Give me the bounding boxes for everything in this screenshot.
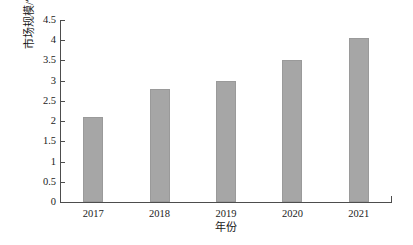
- y-tick-label: 2: [51, 114, 56, 127]
- y-tick: 2.5: [60, 101, 65, 102]
- bar: [282, 60, 302, 202]
- x-axis-title: 年份: [60, 220, 392, 234]
- y-tick-mark: [61, 121, 65, 122]
- x-tick: 2021: [359, 202, 360, 203]
- x-axis-end-cap: [391, 196, 392, 202]
- y-tick: 4.5: [60, 20, 65, 21]
- plot-area: 00.511.522.533.544.5 2017201820192020202…: [60, 20, 392, 202]
- y-tick-label: 0: [51, 195, 56, 208]
- y-tick-mark: [61, 182, 65, 183]
- y-tick-mark: [61, 81, 65, 82]
- x-tick-label: 2018: [130, 207, 190, 220]
- y-tick-mark: [61, 162, 65, 163]
- y-tick-mark: [61, 20, 65, 21]
- y-tick-mark: [61, 40, 65, 41]
- x-tick: 2020: [292, 202, 293, 203]
- y-tick: 0.5: [60, 182, 65, 183]
- bar: [83, 117, 103, 202]
- x-tick-label: 2020: [262, 207, 322, 220]
- bar: [216, 81, 236, 202]
- x-tick: 2018: [160, 202, 161, 203]
- y-tick-label: 4.5: [43, 13, 56, 26]
- x-tick: 2019: [226, 202, 227, 203]
- x-tick-label: 2017: [63, 207, 123, 220]
- y-tick-mark: [61, 60, 65, 61]
- y-tick: 1: [60, 162, 65, 163]
- y-axis-line: [60, 20, 61, 203]
- y-tick: 3.5: [60, 60, 65, 61]
- y-tick-label: 1.5: [43, 134, 56, 147]
- y-tick-label: 4: [51, 33, 56, 46]
- y-tick-label: 1: [51, 155, 56, 168]
- y-tick: 3: [60, 81, 65, 82]
- y-tick: 4: [60, 40, 65, 41]
- y-tick-label: 3: [51, 74, 56, 87]
- y-axis-title: 市场规模/亿美元: [22, 0, 36, 64]
- bar: [349, 38, 369, 202]
- x-tick-label: 2019: [196, 207, 256, 220]
- y-tick-mark: [61, 141, 65, 142]
- x-tick: 2017: [93, 202, 94, 203]
- y-tick-label: 0.5: [43, 175, 56, 188]
- y-tick: 0: [60, 202, 65, 203]
- bar: [150, 89, 170, 202]
- y-tick-mark: [61, 202, 65, 203]
- y-tick-label: 2.5: [43, 94, 56, 107]
- y-tick: 2: [60, 121, 65, 122]
- x-tick-label: 2021: [329, 207, 389, 220]
- bar-chart-figure: 市场规模/亿美元 00.511.522.533.544.5 2017201820…: [0, 0, 413, 245]
- y-tick-mark: [61, 101, 65, 102]
- y-tick-label: 3.5: [43, 53, 56, 66]
- y-tick: 1.5: [60, 141, 65, 142]
